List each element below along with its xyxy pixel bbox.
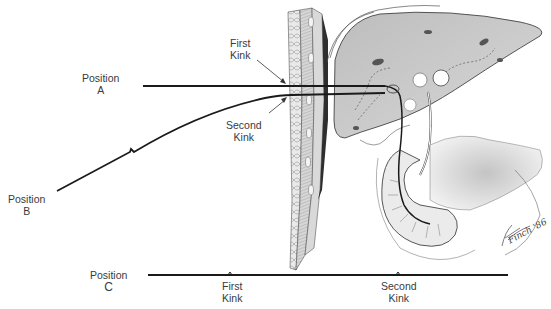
medical-diagram: First Kink Position A Second Kink Positi… <box>0 0 551 309</box>
label-line: Kink <box>230 49 250 61</box>
label-second-kink-top: Second Kink <box>226 119 262 143</box>
label-line: B <box>8 205 45 217</box>
label-line: Position <box>82 72 119 84</box>
label-line: A <box>82 84 119 96</box>
label-first-kink-top: First Kink <box>230 37 250 61</box>
label-position-c: Position C <box>90 269 127 293</box>
label-line: Second <box>226 119 262 131</box>
label-line: C <box>90 281 127 293</box>
label-position-a: Position A <box>82 72 119 96</box>
label-line: Kink <box>226 131 262 143</box>
label-line: Kink <box>222 292 242 304</box>
label-line: Position <box>8 193 45 205</box>
abdominal-wall <box>288 8 328 270</box>
label-second-kink-bottom: Second Kink <box>381 280 417 304</box>
diagram-artwork <box>0 0 551 309</box>
label-line: Kink <box>381 292 417 304</box>
label-line: Second <box>381 280 417 292</box>
wire-position-c <box>148 272 508 275</box>
label-line: First <box>222 280 242 292</box>
label-position-b: Position B <box>8 193 45 217</box>
label-line: First <box>230 37 250 49</box>
label-first-kink-bottom: First Kink <box>222 280 242 304</box>
